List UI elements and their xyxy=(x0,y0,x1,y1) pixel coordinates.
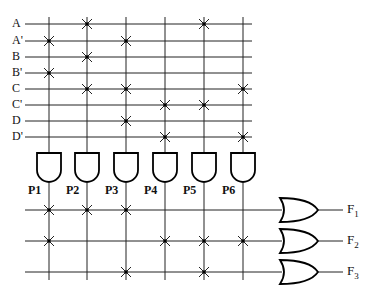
output-label-sub: 3 xyxy=(354,271,359,281)
and-gates xyxy=(37,153,255,182)
product-label: P4 xyxy=(144,184,157,196)
product-label: P6 xyxy=(222,184,235,196)
input-label: B' xyxy=(12,66,22,78)
input-label: B xyxy=(12,50,20,62)
output-label: F3 xyxy=(347,264,359,283)
or-gate xyxy=(280,260,318,284)
and-gate xyxy=(153,153,177,182)
product-label: P2 xyxy=(66,184,79,196)
or-gate xyxy=(280,198,318,222)
product-label: P1 xyxy=(28,184,41,196)
input-label: C' xyxy=(12,98,22,110)
input-label: C xyxy=(12,82,20,94)
and-plane xyxy=(25,17,252,153)
or-gates xyxy=(280,198,343,284)
input-label: D xyxy=(12,114,21,126)
output-label: F2 xyxy=(347,233,359,252)
pla-diagram xyxy=(0,0,376,300)
and-gate xyxy=(114,153,138,182)
output-label-sub: 2 xyxy=(354,240,359,250)
and-gate xyxy=(231,153,255,182)
output-label: F1 xyxy=(347,202,359,221)
or-gate xyxy=(280,229,318,253)
and-gate xyxy=(37,153,61,182)
product-label: P5 xyxy=(183,184,196,196)
and-gate xyxy=(192,153,216,182)
and-gate xyxy=(75,153,99,182)
input-label: A xyxy=(12,17,21,29)
product-label: P3 xyxy=(105,184,118,196)
input-label: D' xyxy=(12,130,23,142)
output-label-sub: 1 xyxy=(354,209,359,219)
input-label: A' xyxy=(12,34,23,46)
